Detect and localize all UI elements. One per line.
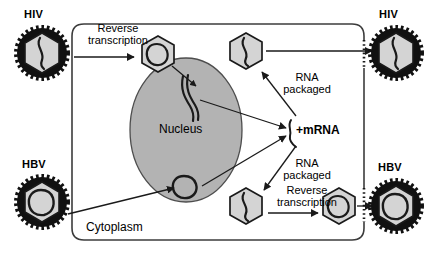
label-hbv-entry: HBV <box>22 158 46 170</box>
hiv-assembled-capsid <box>230 33 262 69</box>
hbv-assembled-capsid <box>230 188 262 224</box>
hbv-entry-virion <box>17 177 68 228</box>
hiv-exit-virion <box>371 28 422 79</box>
label-mrna: +mRNA <box>296 124 340 137</box>
arrow-hbv-entry-to-nucleus <box>68 188 174 214</box>
label-hiv-exit: HIV <box>379 8 398 20</box>
label-hbv-exit: HBV <box>378 161 402 173</box>
mrna-strand-glyph <box>289 120 296 147</box>
replication-cycle-figure: HIV HIV HBV HBV Reverse transcription RN… <box>0 0 431 261</box>
circular-dna-genome <box>383 194 408 219</box>
label-rna-packaged-top: RNA packaged <box>276 71 338 96</box>
label-reverse-transcription-top: Reverse transcription <box>75 22 161 47</box>
episomal-circular-dna <box>173 176 197 198</box>
circular-dna-genome <box>147 44 168 65</box>
label-nucleus: Nucleus <box>159 123 202 136</box>
hbv-exit-virion <box>371 181 422 232</box>
diagram-canvas <box>0 0 431 261</box>
label-hiv-entry: HIV <box>24 8 43 20</box>
hiv-entry-virion <box>17 28 68 79</box>
label-cytoplasm: Cytoplasm <box>86 221 143 234</box>
label-rna-packaged-bottom: RNA packaged <box>276 157 338 182</box>
label-reverse-transcription-bottom: Reverse transcription <box>260 184 354 209</box>
circular-dna-genome <box>29 190 54 215</box>
